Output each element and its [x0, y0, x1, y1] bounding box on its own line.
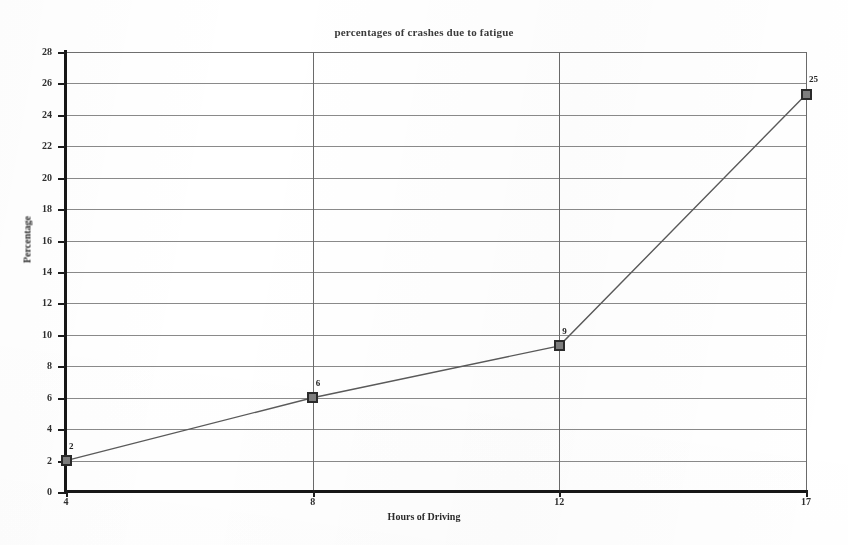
x-axis-tick-label: 17 — [791, 496, 821, 507]
y-axis-tick-label: 28 — [26, 46, 52, 57]
y-axis-tick-label: 12 — [26, 297, 52, 308]
chart-figure: percentages of crashes due to fatigue 02… — [0, 0, 848, 545]
y-axis-tick-label: 6 — [26, 392, 52, 403]
y-axis-tick-label: 4 — [26, 423, 52, 434]
data-point-label: 25 — [809, 74, 818, 84]
y-axis-tick-label: 20 — [26, 172, 52, 183]
data-point-marker — [307, 392, 318, 403]
y-axis-tick-label: 0 — [26, 486, 52, 497]
y-axis-tick-label: 10 — [26, 329, 52, 340]
y-axis-tick-label: 24 — [26, 109, 52, 120]
y-axis-tick-label: 8 — [26, 360, 52, 371]
data-point-label: 9 — [562, 326, 567, 336]
data-point-marker — [554, 340, 565, 351]
chart-title: percentages of crashes due to fatigue — [0, 26, 848, 38]
data-point-marker — [801, 89, 812, 100]
y-axis-title: Percentage — [22, 195, 33, 285]
x-axis-tick-label: 4 — [51, 496, 81, 507]
x-axis-tick-label: 8 — [298, 496, 328, 507]
x-axis-tick-label: 12 — [544, 496, 574, 507]
y-axis-tick-label: 22 — [26, 140, 52, 151]
data-point-label: 2 — [69, 441, 74, 451]
y-axis-tick-label: 26 — [26, 77, 52, 88]
data-point-label: 6 — [316, 378, 321, 388]
x-axis-title: Hours of Driving — [0, 511, 848, 522]
series-line — [0, 0, 848, 545]
y-axis-tick-label: 2 — [26, 455, 52, 466]
data-point-marker — [61, 455, 72, 466]
